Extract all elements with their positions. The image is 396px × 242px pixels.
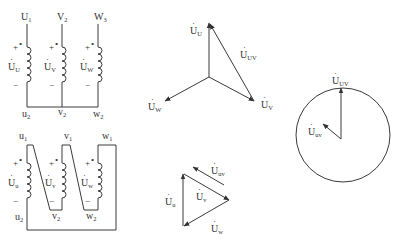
terminal-label-w2: w2 (93, 108, 103, 120)
terminal-label-V2-top: V2 (57, 11, 67, 23)
coil-v-icon (62, 163, 66, 198)
polarity-dot-icon: • (55, 39, 58, 49)
polarity-dot-icon: • (91, 39, 94, 49)
phasor-label-Uw: Uw (211, 223, 223, 235)
plus-sign: + (85, 158, 90, 168)
delta-connector-w-u (27, 145, 116, 230)
phasor-label-UV: UV (261, 99, 273, 111)
polarity-dot-icon: • (19, 39, 22, 49)
minus-sign: − (85, 80, 90, 90)
dot-accent: · (82, 54, 85, 64)
minus-sign: − (13, 80, 18, 90)
phasor-w-arrow-icon (184, 200, 229, 226)
phasor-label-Uu: Uu (165, 196, 176, 208)
terminal-label-W3: W3 (94, 11, 107, 23)
terminal-label-w1: w1 (102, 130, 112, 142)
dot-accent: · (10, 54, 13, 64)
clock-label-Uuv: Uuv (308, 126, 322, 138)
dot-accent: · (10, 170, 13, 180)
terminal-label-u1: u1 (19, 130, 27, 142)
minus-sign: − (85, 196, 90, 206)
plus-sign: + (85, 42, 90, 52)
terminal-label-v2-delta: v2 (52, 210, 60, 222)
star-phasor-diagram: · UU · UUV · UV · UW (148, 18, 273, 113)
terminal-label-u2-delta: u2 (15, 211, 23, 223)
coil-w-icon (98, 163, 102, 198)
dot-accent: · (46, 54, 49, 64)
minus-sign: − (13, 196, 18, 206)
phasor-label-UUV: UUV (240, 49, 257, 61)
phasor-label-Uv: Uv (196, 191, 207, 203)
coil-W-icon (98, 47, 102, 82)
star-winding-circuit: U1 V2 W3 + • + • + • UU · UV · UW · − − … (8, 11, 107, 120)
dot-accent: · (47, 170, 50, 180)
terminal-label-u2: u2 (22, 108, 30, 120)
coil-U-icon (27, 47, 31, 82)
coil-V-icon (62, 47, 66, 82)
plus-sign: + (13, 42, 18, 52)
phasor-label-UW: UW (148, 101, 162, 113)
plus-sign: + (13, 158, 18, 168)
polarity-dot-icon: • (91, 155, 94, 165)
phasor-label-Uuv: Uuv (211, 165, 225, 177)
dot-accent: · (83, 170, 86, 180)
delta-phasor-diagram: · Uuv · Uu · Uv · Uw (165, 158, 229, 235)
terminal-label-v1: v1 (64, 130, 72, 142)
plus-sign: + (49, 158, 54, 168)
minus-sign: − (49, 80, 54, 90)
transformer-connection-diagram: U1 V2 W3 + • + • + • UU · UV · UW · − − … (0, 0, 396, 242)
minus-sign: − (49, 196, 54, 206)
delta-winding-circuit: u1 v1 w1 + • + • + • Uu · Uv · Uw · − − … (8, 130, 116, 230)
terminal-label-v2: v2 (58, 106, 66, 118)
coil-u-icon (27, 163, 31, 198)
terminal-label-w2-delta: w2 (86, 210, 96, 222)
phasor-label-UU: UU (190, 25, 202, 37)
polarity-dot-icon: • (55, 155, 58, 165)
plus-sign: + (49, 42, 54, 52)
phasor-v-arrow-icon (184, 174, 229, 200)
clock-hand-uv-arrow-icon (323, 124, 341, 139)
clock-label-UUV: UUV (332, 75, 349, 87)
clock-diagram: · UUV · Uuv (296, 68, 390, 182)
terminal-label-U1: U1 (21, 11, 31, 23)
polarity-dot-icon: • (19, 155, 22, 165)
phasor-W-arrow-icon (165, 77, 209, 101)
